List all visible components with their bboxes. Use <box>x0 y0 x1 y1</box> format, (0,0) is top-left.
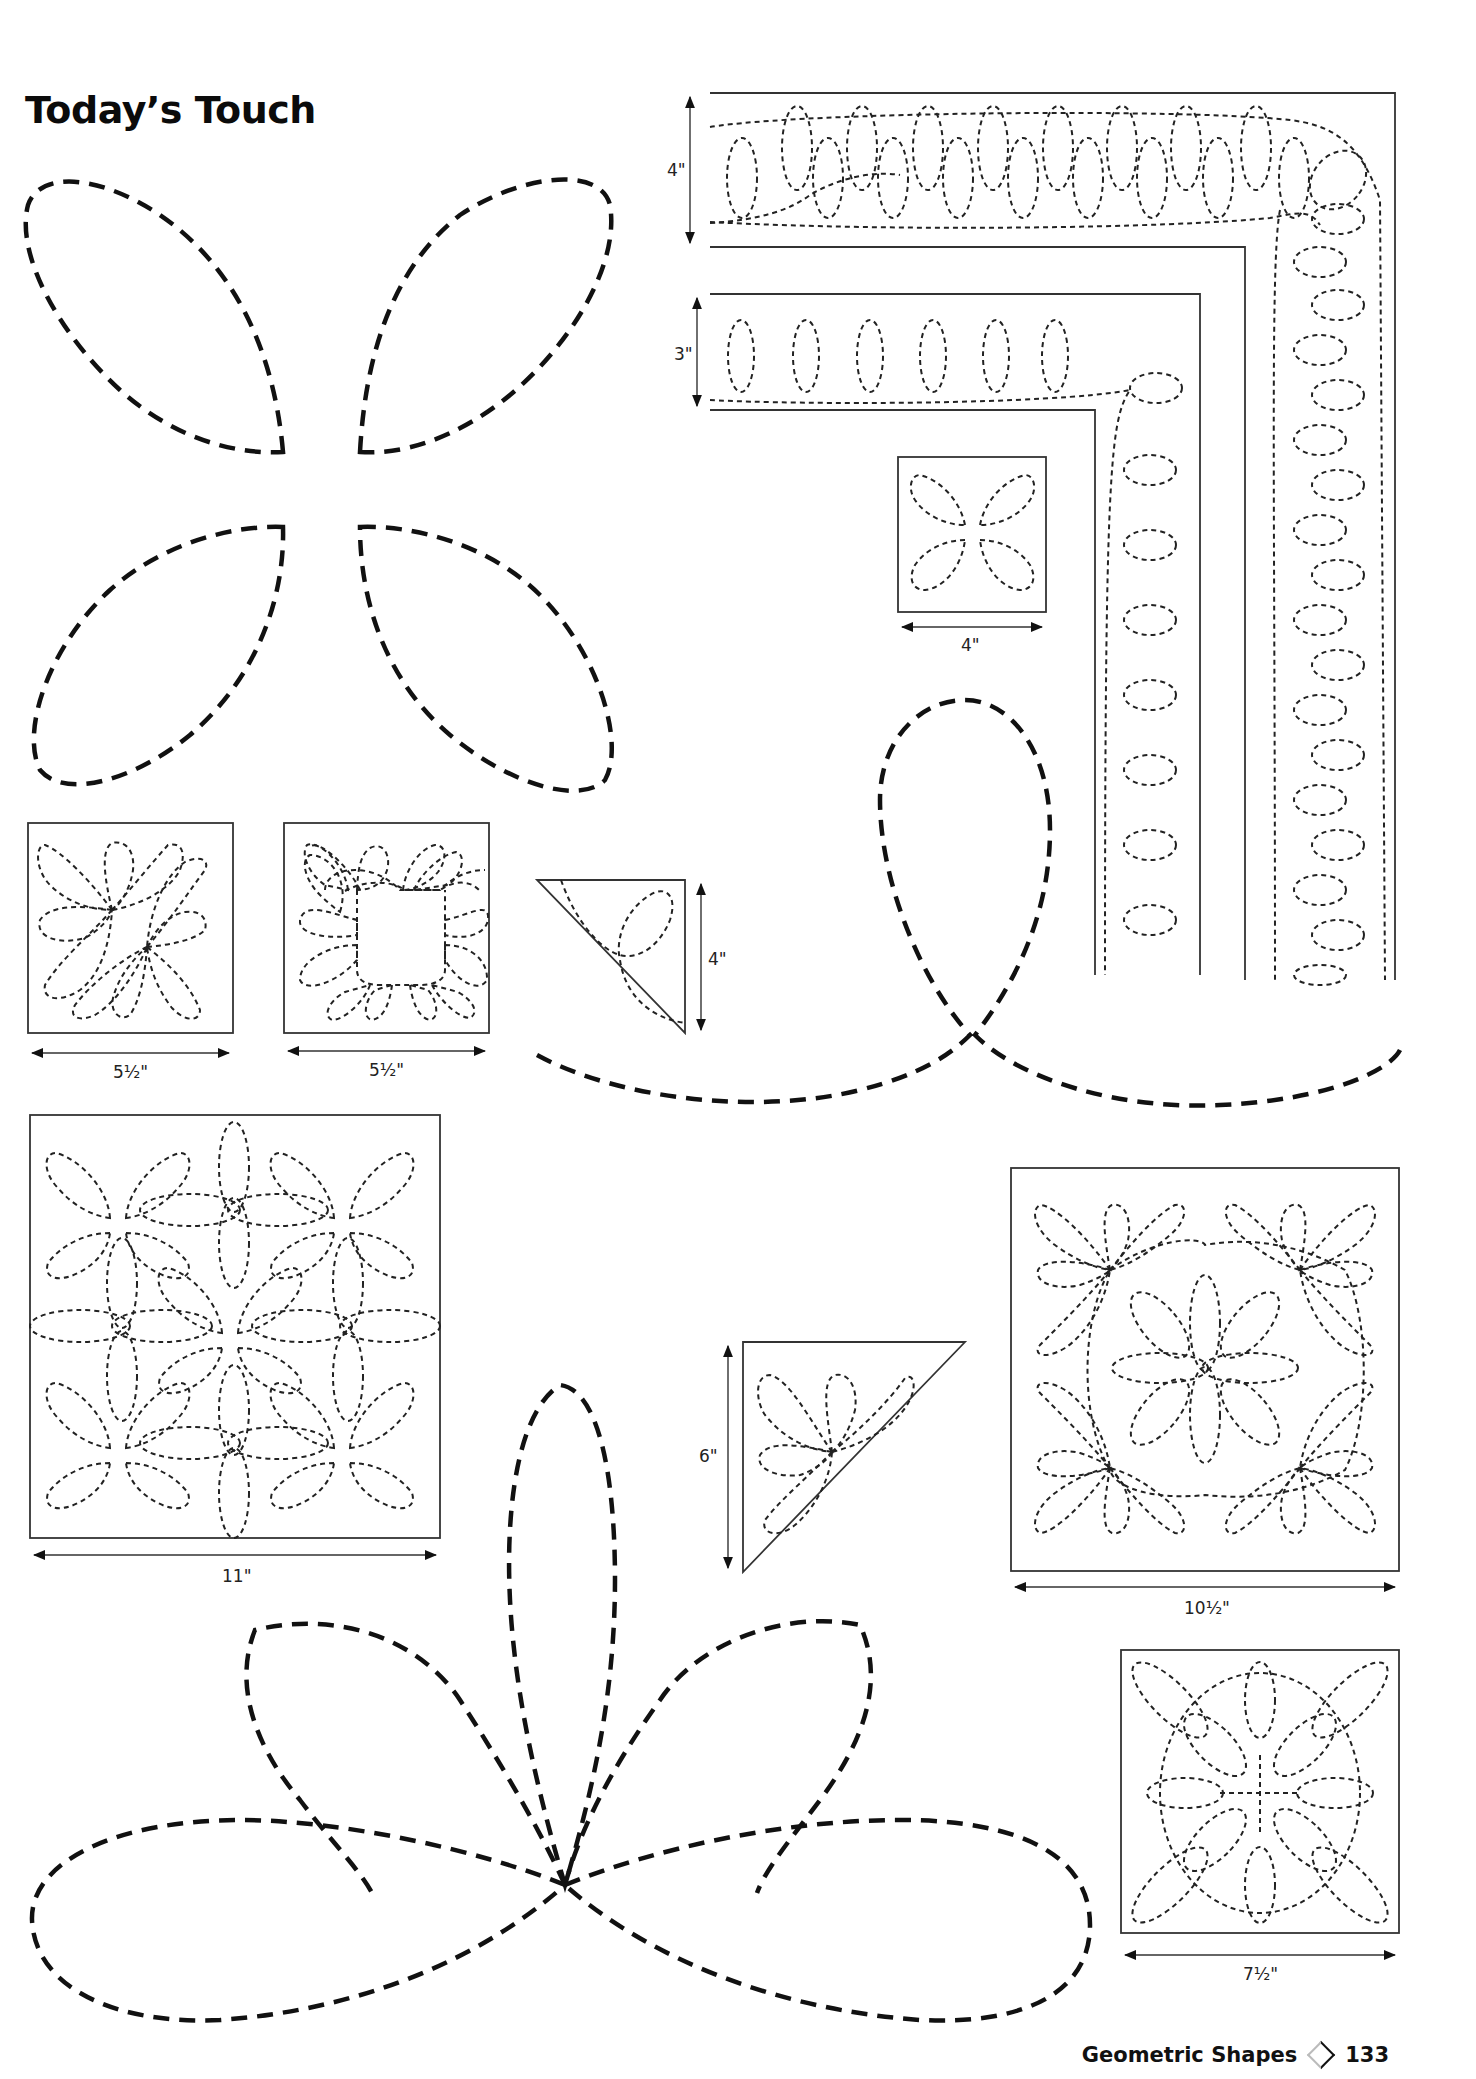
block-7half-label: 7½" <box>1243 1964 1278 1984</box>
page-number: 133 <box>1345 2043 1389 2067</box>
block-5half-b-label: 5½" <box>369 1060 404 1080</box>
border-4in-label: 4" <box>667 160 686 180</box>
block-4in-label: 4" <box>961 635 980 655</box>
section-name: Geometric Shapes <box>1082 2043 1297 2067</box>
triangle-6in: 6" <box>699 1342 965 1572</box>
block-5half-a-label: 5½" <box>113 1062 148 1082</box>
triangle-4in-label: 4" <box>708 949 727 969</box>
border-3in-label: 3" <box>674 344 693 364</box>
block-10half: 10½" <box>1011 1168 1399 1618</box>
triangle-4in: 4" <box>537 880 727 1033</box>
diamond-icon <box>1307 2041 1335 2069</box>
pattern-artwork: 4" <box>0 0 1476 2079</box>
block-11in: 11" <box>30 1115 440 1586</box>
triangle-6in-label: 6" <box>699 1446 718 1466</box>
block-7half: 7½" <box>1121 1650 1399 1984</box>
border-4in: 4" <box>667 93 1395 985</box>
block-5half-b: 5½" <box>284 823 489 1080</box>
loop-large-template <box>537 700 1400 1106</box>
block-10half-label: 10½" <box>1184 1598 1230 1618</box>
page-footer: Geometric Shapes 133 <box>1082 2043 1389 2067</box>
block-5half-a: 5½" <box>28 823 233 1082</box>
block-11in-label: 11" <box>222 1566 251 1586</box>
fan-large-template <box>32 1385 1090 2021</box>
block-4in: 4" <box>898 457 1046 655</box>
four-petal-large-template <box>26 180 612 791</box>
border-3in: 3" <box>674 294 1200 975</box>
